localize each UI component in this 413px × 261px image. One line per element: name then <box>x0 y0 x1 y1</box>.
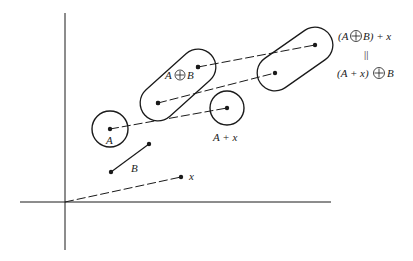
label-A-plus-x: A + x <box>212 131 237 143</box>
segment-B <box>111 144 149 172</box>
eq-bottom-right: B <box>387 67 394 79</box>
point-translated-low <box>273 71 277 75</box>
point-A-dilate-B-low-top <box>156 101 160 105</box>
eq-top-right: B) + x <box>363 30 391 43</box>
label-x: x <box>188 170 194 182</box>
label-A-dilate-B-left: A <box>164 69 172 81</box>
equation-block: (A B) + x || (A + x) B <box>337 30 394 80</box>
point-A-plus-x <box>225 106 229 110</box>
point-translated-high <box>313 43 317 47</box>
label-B: B <box>131 162 138 174</box>
eq-bottom-left: (A + x) <box>337 67 369 80</box>
label-A-dilate-B-right: B <box>187 69 194 81</box>
point-A-dilate-B-high-top <box>196 65 200 69</box>
eq-equals: || <box>364 48 368 60</box>
point-B-end <box>147 142 151 146</box>
eq-top-left: (A <box>338 30 349 43</box>
vector-x-dashed <box>65 177 181 202</box>
label-A: A <box>105 134 113 146</box>
point-x <box>179 175 183 179</box>
dilation-translation-diagram: x B A A + x A B (A B) + x || (A + <box>0 0 413 261</box>
point-B-start <box>109 170 113 174</box>
